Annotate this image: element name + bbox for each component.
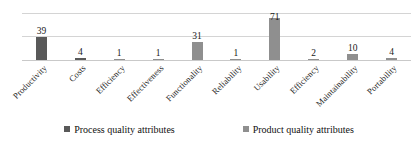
category-label-text: Productivity	[11, 63, 49, 101]
legend-swatch-icon	[243, 126, 249, 132]
bar-slot	[61, 13, 100, 60]
bar-functionality-4[interactable]	[192, 42, 203, 60]
legend-item-process[interactable]: Process quality attributes	[64, 124, 175, 135]
legend-label: Product quality attributes	[253, 124, 354, 135]
bar-efficiency-2[interactable]	[114, 59, 125, 61]
bar-efficiency-7[interactable]	[308, 59, 319, 61]
bar-slot	[139, 13, 178, 60]
bar-slot	[217, 13, 256, 60]
bar-usability-6[interactable]	[269, 18, 280, 60]
bar-slot	[294, 13, 333, 60]
category-label-9: Portability	[372, 61, 411, 113]
category-label-0: Productivity	[22, 61, 61, 113]
bar-slot	[255, 13, 294, 60]
category-label-text: Usability	[252, 63, 282, 93]
category-label-text: Costs	[66, 63, 87, 84]
category-label-5: Reliability	[217, 61, 256, 113]
legend-swatch-icon	[64, 126, 70, 132]
bars-layer	[22, 13, 411, 61]
bar-chart: 39411311712104 ProductivityCostsEfficien…	[0, 0, 418, 141]
legend-item-product[interactable]: Product quality attributes	[243, 124, 354, 135]
chart-legend: Process quality attributesProduct qualit…	[0, 119, 418, 139]
bar-reliability-5[interactable]	[230, 59, 241, 61]
bar-portability-9[interactable]	[386, 58, 397, 60]
bar-slot	[333, 13, 372, 60]
bar-effectiveness-3[interactable]	[153, 59, 164, 61]
bar-slot	[178, 13, 217, 60]
bar-slot	[100, 13, 139, 60]
bar-costs-1[interactable]	[75, 58, 86, 60]
bar-slot	[372, 13, 411, 60]
plot-area	[22, 13, 411, 61]
bar-maintainability-8[interactable]	[347, 54, 358, 60]
bar-productivity-0[interactable]	[36, 37, 47, 60]
category-labels-layer: ProductivityCostsEfficiencyEffectiveness…	[22, 61, 411, 113]
legend-label: Process quality attributes	[74, 124, 175, 135]
bar-slot	[22, 13, 61, 60]
